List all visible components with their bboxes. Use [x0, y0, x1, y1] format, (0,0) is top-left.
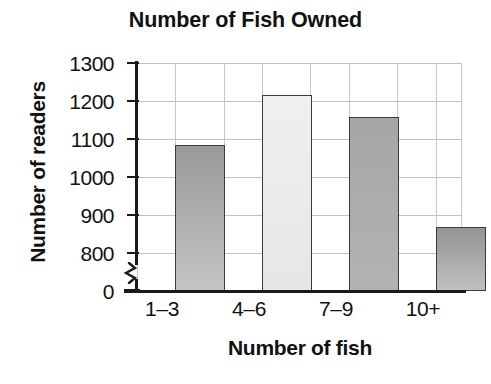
x-tick-label-7-9: 7–9 — [311, 297, 361, 321]
bar-chart: Number of Fish Owned Number of readers 1… — [0, 0, 491, 384]
x-tick-label-4-6: 4–6 — [224, 297, 274, 321]
y-tick-label-1300: 1300 — [28, 53, 114, 74]
plot-area — [137, 63, 462, 291]
x-tick-label-10plus: 10+ — [398, 297, 448, 321]
x-axis-line — [124, 290, 466, 293]
axis-break-icon — [120, 262, 142, 284]
x-axis-title: Number of fish — [120, 336, 480, 360]
y-tick-mark-800 — [127, 252, 139, 254]
y-tick-label-900: 900 — [28, 205, 114, 226]
y-tick-mark-900 — [127, 214, 139, 216]
y-axis-line — [135, 61, 138, 265]
x-axis-tick-labels: 1–3 4–6 7–9 10+ — [0, 297, 491, 327]
bar-10plus[interactable] — [436, 227, 486, 291]
y-tick-mark-0 — [124, 289, 140, 292]
y-tick-mark-1200 — [127, 100, 139, 102]
x-tick-label-1-3: 1–3 — [137, 297, 187, 321]
y-tick-label-1200: 1200 — [28, 91, 114, 112]
y-tick-mark-1100 — [127, 138, 139, 140]
y-tick-label-1100: 1100 — [28, 129, 114, 150]
bar-7-9[interactable] — [349, 117, 399, 291]
bar-1-3[interactable] — [175, 145, 225, 291]
y-tick-mark-1000 — [127, 176, 139, 178]
y-tick-label-1000: 1000 — [28, 167, 114, 188]
y-tick-label-800: 800 — [28, 243, 114, 264]
bar-4-6[interactable] — [262, 95, 312, 291]
gridline-h-1300 — [137, 63, 462, 64]
y-tick-mark-1300 — [127, 62, 139, 64]
